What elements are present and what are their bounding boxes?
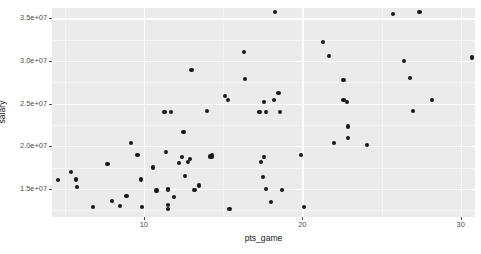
data-point bbox=[183, 174, 187, 178]
data-point bbox=[272, 98, 276, 102]
scatter-plot-figure: 1.5e+072.0e+072.5e+073.0e+073.5e+07 1020… bbox=[0, 0, 481, 254]
data-point bbox=[430, 98, 434, 102]
data-point bbox=[227, 207, 231, 211]
y-tick-mark bbox=[49, 189, 52, 190]
data-point bbox=[110, 199, 114, 203]
y-tick-label: 3.5e+07 bbox=[20, 14, 47, 21]
data-point bbox=[74, 177, 78, 181]
y-tick-mark bbox=[49, 146, 52, 147]
data-point bbox=[345, 100, 349, 104]
y-tick-label: 3.0e+07 bbox=[20, 57, 47, 64]
data-point bbox=[151, 165, 155, 169]
y-tick-mark bbox=[49, 61, 52, 62]
data-point bbox=[210, 155, 214, 159]
data-point bbox=[105, 162, 109, 166]
data-point bbox=[346, 136, 350, 140]
gridline-minor-horizontal bbox=[52, 40, 475, 41]
data-point bbox=[411, 109, 415, 113]
gridline-minor-horizontal bbox=[52, 210, 475, 211]
data-point bbox=[166, 188, 170, 192]
gridline-major-vertical bbox=[302, 8, 303, 217]
data-point bbox=[402, 59, 406, 63]
data-point bbox=[118, 204, 122, 208]
data-point bbox=[417, 10, 421, 14]
gridline-minor-horizontal bbox=[52, 168, 475, 169]
data-point bbox=[192, 188, 196, 192]
data-point bbox=[188, 157, 192, 161]
data-point bbox=[129, 141, 133, 145]
data-point bbox=[327, 54, 331, 58]
plot-panel bbox=[52, 8, 475, 217]
gridline-minor-vertical bbox=[382, 8, 383, 217]
data-point bbox=[332, 141, 336, 145]
data-point bbox=[197, 183, 201, 187]
gridline-minor-vertical bbox=[65, 8, 66, 217]
data-point bbox=[391, 12, 395, 16]
data-point bbox=[278, 110, 282, 114]
data-point bbox=[242, 50, 246, 54]
data-point bbox=[243, 77, 247, 81]
data-point bbox=[124, 194, 128, 198]
gridline-major-vertical bbox=[144, 8, 145, 217]
x-tick-label: 10 bbox=[140, 221, 148, 228]
data-point bbox=[56, 178, 60, 182]
y-tick-label: 2.0e+07 bbox=[20, 142, 47, 149]
data-point bbox=[269, 200, 273, 204]
data-point bbox=[470, 55, 474, 59]
gridline-minor-horizontal bbox=[52, 125, 475, 126]
data-point bbox=[273, 10, 277, 14]
data-point bbox=[162, 110, 166, 114]
data-point bbox=[346, 124, 350, 128]
data-point bbox=[259, 160, 263, 164]
y-tick-label: 2.5e+07 bbox=[20, 100, 47, 107]
data-point bbox=[408, 76, 412, 80]
x-tick-label: 30 bbox=[457, 221, 465, 228]
data-point bbox=[302, 205, 306, 209]
data-point bbox=[169, 110, 173, 114]
data-point bbox=[299, 153, 303, 157]
data-point bbox=[69, 170, 73, 174]
data-point bbox=[91, 205, 95, 209]
data-point bbox=[262, 155, 266, 159]
x-axis-title: pts_game bbox=[52, 234, 475, 243]
gridline-major-horizontal bbox=[52, 18, 475, 19]
data-point bbox=[181, 130, 185, 134]
data-point bbox=[264, 110, 268, 114]
data-point bbox=[205, 109, 209, 113]
data-point bbox=[154, 188, 158, 192]
data-point bbox=[261, 175, 265, 179]
data-point bbox=[341, 78, 345, 82]
y-tick-label: 1.5e+07 bbox=[20, 185, 47, 192]
y-tick-mark bbox=[49, 104, 52, 105]
y-axis-title: salary bbox=[0, 101, 6, 124]
data-point bbox=[164, 150, 168, 154]
data-point bbox=[180, 155, 184, 159]
gridline-minor-horizontal bbox=[52, 82, 475, 83]
y-tick-mark bbox=[49, 18, 52, 19]
data-point bbox=[172, 195, 176, 199]
data-point bbox=[226, 98, 230, 102]
data-point bbox=[135, 153, 139, 157]
gridline-major-vertical bbox=[461, 8, 462, 217]
gridline-major-horizontal bbox=[52, 61, 475, 62]
data-point bbox=[280, 188, 284, 192]
x-tick-label: 20 bbox=[298, 221, 306, 228]
gridline-minor-vertical bbox=[223, 8, 224, 217]
data-point bbox=[276, 91, 280, 95]
data-point bbox=[139, 177, 143, 181]
data-point bbox=[189, 68, 193, 72]
data-point bbox=[177, 161, 181, 165]
data-point bbox=[257, 110, 261, 114]
data-point bbox=[321, 40, 325, 44]
gridline-major-horizontal bbox=[52, 146, 475, 147]
data-point bbox=[264, 187, 268, 191]
